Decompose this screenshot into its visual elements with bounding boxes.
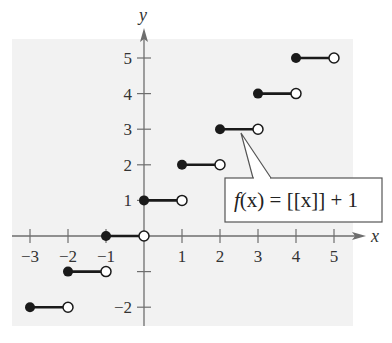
y-tick-label: −2 [114, 298, 132, 317]
closed-dot [215, 124, 225, 134]
open-dot [101, 267, 111, 277]
closed-dot [25, 302, 35, 312]
open-dot [63, 302, 73, 312]
x-tick-label: 2 [216, 247, 225, 266]
x-tick-label: 3 [254, 247, 263, 266]
svg-text:x: x [370, 226, 379, 246]
closed-dot [253, 89, 263, 99]
open-dot [139, 231, 149, 241]
closed-dot [63, 267, 73, 277]
open-dot [253, 124, 263, 134]
y-tick-label: 4 [124, 85, 133, 104]
x-tick-label: 5 [330, 247, 339, 266]
y-tick-label: 3 [124, 120, 133, 139]
closed-dot [101, 231, 111, 241]
x-tick-label: −3 [21, 247, 39, 266]
y-tick-label: 1 [124, 191, 133, 210]
x-axis-label: x [370, 226, 379, 246]
callout-text: f(x) = [[x]] + 1 [234, 188, 358, 212]
open-dot [329, 53, 339, 63]
y-axis-label: y [137, 5, 147, 25]
y-tick-label: 5 [124, 49, 133, 68]
x-tick-label: −2 [59, 247, 77, 266]
step-function-chart: −3−2−112345−212345 x y f(x) = [[x]] + 1 [0, 0, 392, 343]
y-tick-label: 2 [124, 156, 133, 175]
closed-dot [177, 160, 187, 170]
svg-text:y: y [137, 5, 147, 25]
open-dot [215, 160, 225, 170]
closed-dot [139, 195, 149, 205]
open-dot [291, 89, 301, 99]
closed-dot [291, 53, 301, 63]
x-tick-label: 4 [292, 247, 301, 266]
open-dot [177, 195, 187, 205]
x-tick-label: −1 [97, 247, 115, 266]
x-tick-label: 1 [178, 247, 187, 266]
